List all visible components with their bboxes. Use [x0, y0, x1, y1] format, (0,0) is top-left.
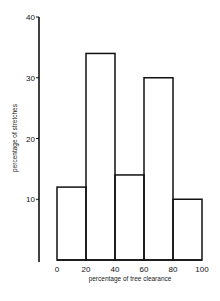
y-axis: 10203040 [26, 13, 39, 262]
bar-0-20 [57, 187, 86, 260]
bar-80-100 [173, 199, 202, 260]
x-tick-label: 80 [169, 265, 178, 274]
histogram-chart: 10203040 020406080100 percentage of tree… [0, 0, 220, 301]
bars [57, 53, 202, 260]
y-tick-label: 30 [26, 74, 35, 83]
x-tick-label: 0 [55, 265, 60, 274]
y-tick-label: 10 [26, 195, 35, 204]
x-tick-label: 60 [140, 265, 149, 274]
bar-40-60 [115, 175, 144, 260]
x-axis: 020406080100 [55, 260, 209, 274]
x-tick-label: 40 [111, 265, 120, 274]
bar-60-80 [144, 78, 173, 260]
y-tick-label: 40 [26, 13, 35, 22]
x-axis-label: percentage of tree clearance [89, 275, 172, 283]
y-tick-label: 20 [26, 135, 35, 144]
x-tick-label: 20 [82, 265, 91, 274]
y-axis-label: percentage of stretches [11, 103, 19, 172]
bar-20-40 [86, 53, 115, 260]
x-tick-label: 100 [195, 265, 209, 274]
